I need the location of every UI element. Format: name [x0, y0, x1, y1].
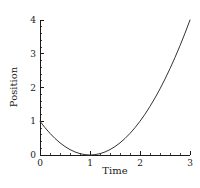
x-tick-label: 2 — [137, 159, 143, 168]
y-tick-label: 1 — [30, 117, 36, 126]
x-axis-label: Time — [102, 165, 127, 176]
y-tick-label: 0 — [30, 151, 36, 160]
y-tick-label: 2 — [30, 83, 36, 92]
axis-spines — [40, 20, 190, 155]
data-series-group — [40, 20, 190, 155]
x-tick-label: 3 — [187, 159, 193, 168]
x-tick-label: 1 — [87, 159, 93, 168]
chart-canvas — [0, 0, 200, 188]
x-tick-label: 0 — [37, 159, 43, 168]
data-line-position — [40, 20, 190, 155]
y-tick-label: 3 — [30, 49, 36, 58]
y-tick-label: 4 — [30, 16, 36, 25]
y-axis-label: Position — [8, 67, 19, 107]
chart-figure: 0123 01234 Time Position — [0, 0, 200, 188]
x-axis-major-ticks — [40, 151, 190, 155]
